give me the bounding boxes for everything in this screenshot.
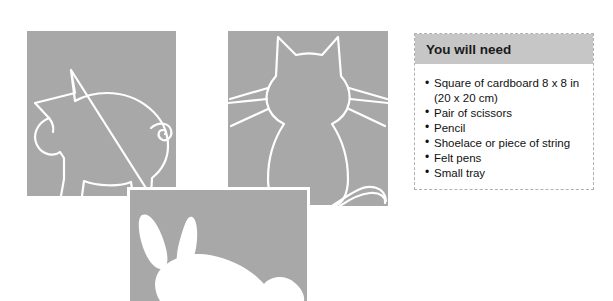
cat-illustration-square: [228, 31, 388, 206]
materials-panel-title: You will need: [426, 42, 511, 57]
list-item-text: Square of cardboard 8 x 8 in: [434, 77, 579, 89]
list-item: Square of cardboard 8 x 8 in (20 x 20 cm…: [425, 76, 585, 105]
list-item-text: Pencil: [434, 122, 465, 134]
list-item-text: Felt pens: [434, 152, 481, 164]
pig-illustration-square: [27, 31, 176, 196]
list-item-text: Small tray: [434, 167, 485, 179]
materials-panel-header: You will need: [415, 34, 593, 64]
illustration-stage: You will need Square of cardboard 8 x 8 …: [0, 0, 613, 301]
list-item: Pair of scissors: [425, 106, 585, 121]
list-item-text: Shoelace or piece of string: [434, 137, 570, 149]
list-item-continuation: (20 x 20 cm): [434, 91, 585, 106]
pig-outline-icon: [27, 31, 176, 196]
list-item: Pencil: [425, 121, 585, 136]
list-item-text: Pair of scissors: [434, 107, 512, 119]
list-item: Felt pens: [425, 151, 585, 166]
materials-panel: You will need Square of cardboard 8 x 8 …: [414, 33, 594, 190]
list-item: Shoelace or piece of string: [425, 136, 585, 151]
materials-list: Square of cardboard 8 x 8 in (20 x 20 cm…: [415, 64, 593, 180]
rabbit-illustration-square: [127, 187, 310, 301]
list-item: Small tray: [425, 166, 585, 181]
rabbit-silhouette-icon: [130, 190, 307, 301]
cat-outline-icon: [228, 31, 388, 206]
